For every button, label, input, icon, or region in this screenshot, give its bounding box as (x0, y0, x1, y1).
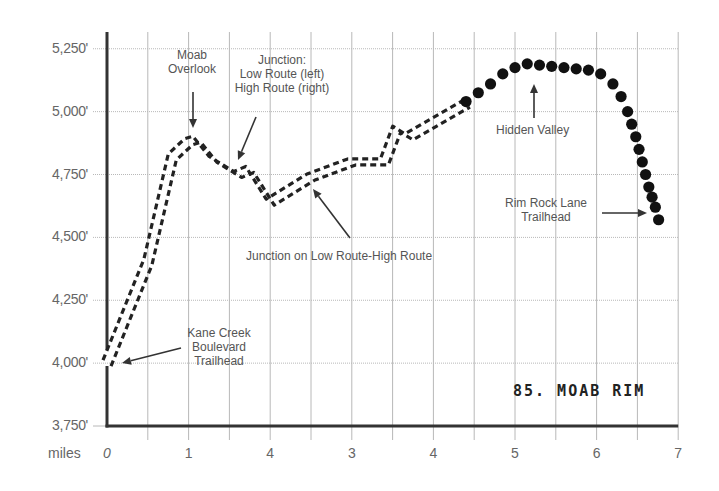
trail-dot (643, 181, 654, 192)
arrow-kane-creek (122, 348, 181, 365)
x-tick-label: 7 (668, 445, 688, 461)
x-tick-label: 4 (423, 445, 443, 461)
trail-dot (626, 119, 637, 130)
trail-dot (615, 91, 626, 102)
y-tick-label: 3,750' (8, 417, 88, 433)
annotation-hidden-valley: Hidden Valley (496, 123, 569, 137)
trail-dot (485, 78, 496, 89)
trail-dot (607, 78, 618, 89)
elevation-chart (0, 0, 719, 491)
annotation-line: Trailhead (183, 354, 255, 368)
y-tick-label: 4,000' (8, 354, 88, 370)
trail-dot (534, 59, 545, 70)
axes (106, 32, 679, 428)
annotation-line: Rim Rock Lane (498, 196, 594, 210)
arrow-hidden-valley (530, 84, 538, 118)
trail-dot (473, 87, 484, 98)
y-tick-label: 4,250' (8, 291, 88, 307)
x-tick-label: 1 (179, 445, 199, 461)
x-tick-label: 4 (260, 445, 280, 461)
trail-dot (583, 65, 594, 76)
x-tick-label: 5 (505, 445, 525, 461)
trail-dot (633, 144, 644, 155)
trail-dot (546, 61, 557, 72)
x-axis-name: miles (48, 445, 92, 461)
trail-dot (595, 68, 606, 79)
trail-dot (522, 58, 533, 69)
trail-dot (640, 169, 651, 180)
grid (93, 32, 678, 440)
trail-dot (653, 214, 664, 225)
annotation-line: Overlook (164, 62, 220, 76)
trail-dot (622, 106, 633, 117)
annotation-line: High Route (right) (226, 81, 338, 95)
trail-dot (460, 96, 471, 107)
trail-dot (650, 202, 661, 213)
annotation-line: Low Route (left) (226, 67, 338, 81)
trail-dashed-line (103, 101, 470, 366)
annotation-line: Junction: (226, 53, 338, 67)
y-tick-label: 4,500' (8, 228, 88, 244)
y-tick-label: 4,750' (8, 166, 88, 182)
trail-dot (558, 62, 569, 73)
arrow-moab-overlook (189, 92, 197, 128)
x-tick-label: 0 (97, 445, 117, 461)
annotation-line: Kane Creek (183, 326, 255, 340)
trail-dot (509, 62, 520, 73)
arrow-rim-rock (602, 209, 647, 217)
trail-dot (630, 131, 641, 142)
annotation-moab-overlook: Moab Overlook (164, 48, 220, 76)
trail-dashed-stroke (111, 107, 470, 366)
trail-dot (637, 156, 648, 167)
x-tick-label: 3 (342, 445, 362, 461)
annotation-line: Trailhead (498, 210, 594, 224)
arrow-low-high-junction (313, 189, 350, 238)
x-tick-label: 6 (587, 445, 607, 461)
trail-dot (497, 68, 508, 79)
chart-title: 85. MOAB RIM (513, 382, 645, 400)
trail-dot (571, 63, 582, 74)
annotation-kane-creek: Kane Creek Boulevard Trailhead (183, 326, 255, 368)
y-tick-label: 5,000' (8, 103, 88, 119)
annotation-line: Boulevard (183, 340, 255, 354)
trail-dashed-stroke (103, 101, 462, 360)
trail-dot (646, 192, 657, 203)
annotation-low-high-junction: Junction on Low Route-High Route (246, 249, 432, 263)
y-tick-label: 5,250' (8, 40, 88, 56)
arrow-junction (238, 117, 256, 160)
annotation-junction: Junction: Low Route (left) High Route (r… (226, 53, 338, 95)
annotation-rim-rock: Rim Rock Lane Trailhead (498, 196, 594, 224)
annotation-line: Moab (164, 48, 220, 62)
